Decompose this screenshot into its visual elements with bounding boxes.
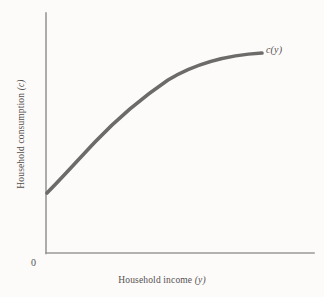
y-axis-label-wrapper: Household consumption (c) — [17, 46, 31, 222]
consumption-curve — [47, 53, 262, 193]
curve-function-label: c(y) — [266, 45, 282, 55]
origin-label: 0 — [31, 258, 36, 268]
x-axis-label: Household income (y) — [0, 276, 324, 286]
consumption-function-chart: 0 c(y) Household income (y) Household co… — [0, 0, 324, 297]
y-axis-label: Household consumption (c) — [17, 46, 27, 222]
